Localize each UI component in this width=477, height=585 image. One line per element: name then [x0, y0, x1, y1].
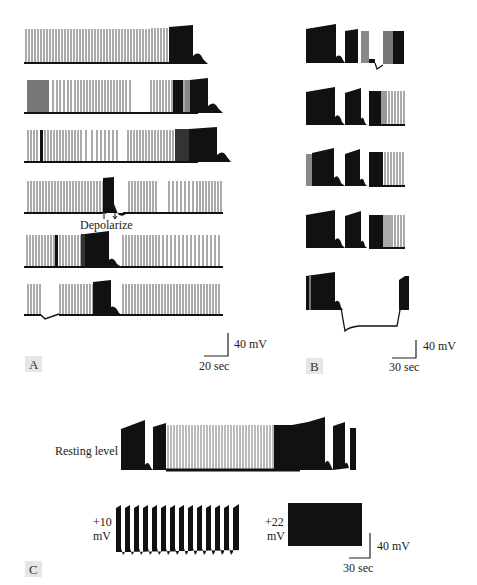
trace-a6 [23, 279, 228, 321]
trace-a4 [23, 176, 228, 216]
trace-b5 [305, 270, 410, 342]
plus10-value: +10 [93, 516, 112, 528]
resting-level-label: Resting level [55, 445, 118, 457]
trace-a1 [23, 24, 228, 66]
scale-voltage-b: 40 mV [423, 340, 456, 352]
trace-a5 [23, 228, 228, 270]
scale-time-c: 30 sec [343, 562, 373, 574]
panel-label-b: B [306, 358, 323, 374]
scale-voltage-c: 40 mV [377, 540, 410, 552]
trace-b4 [305, 208, 410, 253]
trace-b1 [305, 23, 410, 73]
plus22-unit: mV [267, 530, 285, 542]
plus22-value: +22 [265, 516, 284, 528]
trace-c-plus10 [115, 500, 250, 560]
scale-bar-a [203, 332, 231, 358]
scale-voltage-a: 40 mV [234, 338, 267, 350]
plus10-unit: mV [93, 530, 111, 542]
trace-b3 [305, 146, 410, 191]
panel-label-c: C [25, 561, 42, 577]
trace-a3 [23, 125, 233, 165]
panel-label-a: A [25, 356, 42, 372]
scale-bar-b [391, 339, 419, 360]
scale-time-a: 20 sec [199, 360, 229, 372]
trace-c-resting [120, 416, 356, 476]
trace-a2 [23, 76, 228, 116]
depolarize-arrows-icon [100, 210, 120, 220]
scale-time-b: 30 sec [389, 361, 419, 373]
scale-bar-c [348, 532, 373, 560]
trace-b2 [305, 85, 410, 130]
